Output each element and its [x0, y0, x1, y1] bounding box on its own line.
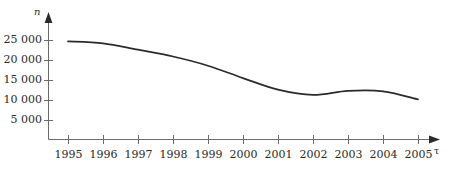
y-tick-label-25000: 25 000: [0, 33, 42, 46]
x-axis: [49, 136, 441, 144]
y-axis-label: n: [34, 6, 40, 17]
x-tick-label-2005: 2005: [397, 148, 440, 161]
y-tick-label-15000: 15 000: [0, 73, 42, 86]
data-series-n: [68, 41, 418, 99]
y-tick-label-10000: 10 000: [0, 93, 42, 106]
y-tick-label-20000: 20 000: [0, 53, 42, 66]
y-tick-label-5000: 5 000: [0, 113, 42, 126]
line-chart: n τ 25 000 20 000 15 000 10 000 5 000 19…: [0, 0, 451, 174]
